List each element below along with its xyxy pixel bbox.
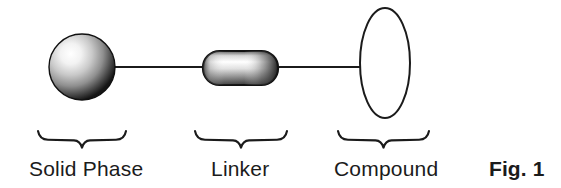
brace-solid-phase (38, 131, 126, 148)
label-linker: Linker (211, 158, 269, 179)
solid-phase-sphere (49, 34, 115, 100)
figure-number-label: Fig. 1 (489, 158, 544, 179)
compound-ellipse (360, 8, 410, 118)
figure-container: Solid Phase Linker Compound Fig. 1 (0, 0, 561, 188)
linker-pill (203, 51, 278, 85)
brace-compound (338, 131, 429, 148)
label-solid-phase: Solid Phase (29, 158, 143, 179)
brace-linker (195, 131, 287, 148)
label-compound: Compound (334, 158, 438, 179)
